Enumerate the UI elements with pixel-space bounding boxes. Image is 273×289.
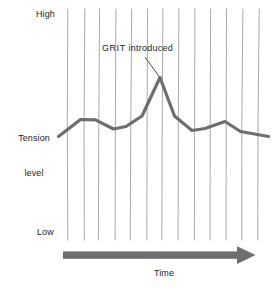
y-axis-title-line2: level xyxy=(11,168,57,180)
y-axis-title: Tension level xyxy=(11,110,57,202)
grit-annotation-caps: GRIT xyxy=(102,43,126,53)
tension-level-line xyxy=(59,78,269,137)
time-arrow xyxy=(63,246,256,264)
time-arrow-shaft xyxy=(63,251,239,258)
x-axis-title: Time xyxy=(140,268,188,279)
gridline xyxy=(98,9,99,240)
tension-over-time-figure: High Low Tension level Time GRIT introdu… xyxy=(0,0,273,289)
time-arrow-head xyxy=(237,246,256,264)
gridline xyxy=(178,9,179,240)
gridline xyxy=(67,9,68,240)
gridline xyxy=(242,9,243,240)
y-axis-title-line1: Tension xyxy=(11,133,57,145)
gridline xyxy=(210,9,211,240)
gridline xyxy=(258,9,260,240)
gridline xyxy=(194,9,195,240)
grit-annotation-rest: introduced xyxy=(126,43,173,53)
axis-label-high: High xyxy=(36,9,55,20)
gridline xyxy=(84,9,85,240)
grit-annotation-label: GRIT introduced xyxy=(102,43,173,54)
axis-label-low: Low xyxy=(37,227,54,238)
